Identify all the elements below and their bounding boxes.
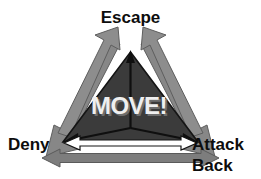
vertex-label-deny: Deny [8,135,50,154]
vertex-label-escape: Escape [101,8,161,27]
move-triangle-diagram: Escape Deny Attack Back MOVE! MOVE! [0,0,261,179]
vertex-label-attack: Attack [192,135,245,154]
vertex-label-back: Back [192,156,233,175]
diagram-root: Escape Deny Attack Back MOVE! MOVE! [0,0,261,179]
center-label-move: MOVE! [91,92,167,119]
